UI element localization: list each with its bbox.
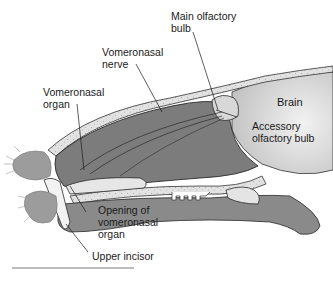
label-vomeronasal-organ: Vomeronasal organ [43, 86, 104, 110]
label-vomeronasal-nerve: Vomeronasal nerve [102, 46, 163, 70]
label-main-olfactory-bulb: Main olfactory bulb [171, 10, 236, 34]
label-accessory-olfactory-bulb: Accessory olfactory bulb [252, 120, 314, 144]
label-brain: Brain [277, 96, 303, 108]
label-opening-of-vomeronasal-organ: Opening of vomeronasal organ [98, 204, 158, 240]
vomeronasal-diagram: Main olfactory bulb Vomeronasal nerve Vo… [0, 0, 333, 282]
label-upper-incisor: Upper incisor [92, 250, 154, 262]
